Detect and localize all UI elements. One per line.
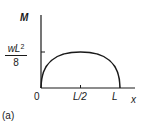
peak-value-label: wL2 8	[4, 43, 28, 68]
x-tick-label-0: 0	[34, 92, 40, 102]
fraction-bar	[5, 55, 27, 56]
peak-numerator: wL2	[4, 43, 28, 54]
y-axis-label: M	[20, 13, 28, 23]
peak-denominator: 8	[4, 57, 28, 68]
x-tick-label-l: L	[112, 92, 118, 102]
x-tick-label-half: L/2	[73, 92, 87, 102]
x-axis-label: x	[131, 95, 136, 105]
moment-curve	[41, 52, 120, 88]
caption: (a)	[2, 111, 14, 121]
